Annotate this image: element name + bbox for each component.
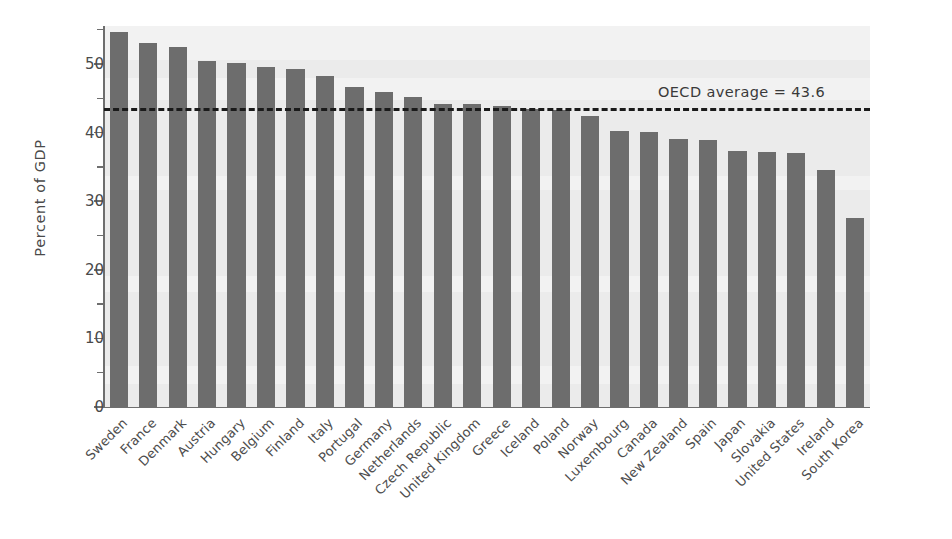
oecd-average-line: [104, 108, 870, 111]
bar-czech-republic: [434, 104, 452, 407]
y-tick-minor: [97, 303, 103, 305]
bar-spain: [699, 140, 717, 407]
chart-figure: Percent of GDP 01020304050 OECD average …: [0, 0, 952, 539]
y-tick-label: 0: [18, 398, 104, 416]
y-tick-minor: [97, 29, 103, 31]
bar-norway: [581, 116, 599, 407]
bar-south-korea: [846, 218, 864, 407]
bar-united-kingdom: [463, 104, 481, 407]
y-tick-minor: [97, 166, 103, 168]
bar-netherlands: [404, 97, 422, 407]
bar-denmark: [169, 47, 187, 407]
y-tick-minor: [97, 372, 103, 374]
y-tick-label: 40: [18, 124, 104, 142]
bar-italy: [316, 76, 334, 407]
y-tick-label: 30: [18, 192, 104, 210]
bar-sweden: [110, 32, 128, 407]
x-axis-line: [103, 407, 870, 409]
bar-austria: [198, 61, 216, 407]
bar-ireland: [817, 170, 835, 407]
y-tick-label: 20: [18, 261, 104, 279]
bar-portugal: [345, 87, 363, 407]
y-tick-label: 10: [18, 329, 104, 347]
y-tick-label: 50: [18, 55, 104, 73]
bar-poland: [552, 110, 570, 407]
bar-canada: [640, 132, 658, 407]
bar-greece: [493, 106, 511, 407]
bar-hungary: [227, 63, 245, 407]
bar-slovakia: [758, 152, 776, 407]
bar-united-states: [787, 153, 805, 407]
bar-france: [139, 43, 157, 407]
bar-new-zealand: [669, 139, 687, 407]
bar-germany: [375, 92, 393, 407]
y-tick-minor: [97, 98, 103, 100]
bar-iceland: [522, 109, 540, 407]
y-tick-minor: [97, 235, 103, 237]
bar-japan: [728, 151, 746, 407]
bar-finland: [286, 69, 304, 407]
bar-belgium: [257, 67, 275, 407]
bar-luxembourg: [610, 131, 628, 407]
oecd-average-label: OECD average = 43.6: [658, 84, 825, 100]
